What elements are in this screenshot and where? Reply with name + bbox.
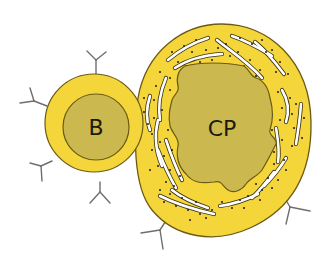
plasma-cell: CP [135, 24, 311, 237]
antibody-icon [90, 182, 110, 203]
plasma-cell-label: CP [208, 116, 237, 141]
b-cell-label: B [88, 115, 103, 140]
cell-diagram: CP B [0, 0, 329, 263]
antibody-icon [20, 88, 47, 106]
antibody-icon [87, 51, 106, 74]
b-cell: B [45, 74, 143, 172]
antibody-icon [30, 161, 52, 181]
